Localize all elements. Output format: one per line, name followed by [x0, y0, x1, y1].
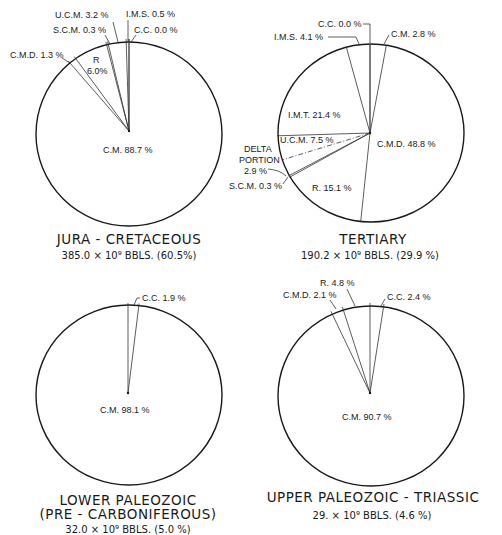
- subtitle-lower-paleozoic: 32.0 × 10⁹ BBLS. (5.0 %): [65, 524, 190, 535]
- leader-cm: [384, 35, 389, 44]
- leader-r: [347, 289, 355, 306]
- label-ucm: U.C.M. 3.2 %: [55, 10, 109, 20]
- pie-upper-paleozoic-triassic: R. 4.8 % C.M.D. 2.1 % C.C. 2.4 % C.M. 90…: [267, 278, 480, 521]
- subtitle-upper-paleozoic-triassic: 29. × 10⁹ BBLS. (4.6 %): [313, 510, 432, 521]
- label-cm: C.M. 2.8 %: [391, 29, 436, 39]
- leader-ims: [328, 37, 359, 44]
- label-cc: C.C. 1.9 %: [142, 293, 186, 303]
- pie-outline: [36, 305, 222, 485]
- label-ims: I.M.S. 0.5 %: [126, 9, 175, 19]
- subtitle-jura-cretaceous: 385.0 × 10⁹ BBLS. (60.5%): [62, 250, 197, 261]
- leader-scm: [283, 177, 288, 184]
- pie-charts-figure: U.C.M. 3.2 % I.M.S. 0.5 % S.C.M. 0.3 % C…: [0, 0, 502, 535]
- title-tertiary: TERTIARY: [338, 231, 407, 247]
- pie-center: [128, 130, 130, 132]
- label-cmd: C.M.D. 1.3 %: [10, 50, 64, 60]
- label-r: R. 4.8 %: [320, 278, 355, 288]
- label-delta-line-3: 2.9 %: [244, 166, 267, 176]
- pie-center: [369, 392, 371, 394]
- label-cmd: C.M.D. 48.8 %: [377, 139, 436, 149]
- label-cm: C.M. 88.7 %: [103, 145, 153, 155]
- label-cm: C.M. 98.1 %: [100, 405, 150, 415]
- label-cc: C.C. 0.0 %: [318, 19, 362, 29]
- pie-lower-paleozoic: C.C. 1.9 % C.M. 98.1 % LOWER PALEOZOIC (…: [36, 293, 222, 535]
- label-cmd: C.M.D. 2.1 %: [283, 290, 337, 300]
- pie-center: [127, 392, 129, 394]
- label-imt: I.M.T. 21.4 %: [288, 110, 341, 120]
- label-r-value: 6.0%: [87, 66, 108, 76]
- leader-cc: [131, 35, 136, 42]
- leader-ucm: [113, 22, 118, 42]
- leader-cc: [381, 299, 385, 306]
- leader-cc: [363, 24, 370, 43]
- title-lower-paleozoic-2: (PRE - CARBONIFEROUS): [39, 506, 216, 522]
- label-r: R. 15.1 %: [312, 183, 352, 193]
- label-r-name: R: [93, 55, 100, 65]
- label-delta-line-2: PORTION: [239, 155, 280, 165]
- label-scm: S.C.M. 0.3 %: [229, 181, 282, 191]
- leader-delta: [268, 169, 286, 176]
- pie-jura-cretaceous: U.C.M. 3.2 % I.M.S. 0.5 % S.C.M. 0.3 % C…: [10, 9, 222, 261]
- title-upper-paleozoic-triassic: UPPER PALEOZOIC - TRIASSIC: [267, 489, 480, 505]
- label-ucm: U.C.M. 7.5 %: [280, 135, 334, 145]
- title-jura-cretaceous: JURA - CRETACEOUS: [56, 231, 201, 247]
- label-scm: S.C.M. 0.3 %: [53, 25, 106, 35]
- label-delta-line-1: DELTA: [244, 144, 272, 154]
- leader-cmd: [62, 58, 70, 63]
- pie-outline: [278, 306, 464, 486]
- pie-tertiary: C.C. 0.0 % I.M.S. 4.1 % C.M. 2.8 % I.M.T…: [229, 19, 464, 261]
- leader-cmd: [330, 300, 336, 309]
- label-cc: C.C. 2.4 %: [387, 292, 431, 302]
- label-cm: C.M. 90.7 %: [342, 412, 392, 422]
- subtitle-tertiary: 190.2 × 10⁹ BBLS. (29.9 %): [301, 250, 439, 261]
- label-ims: I.M.S. 4.1 %: [274, 32, 323, 42]
- label-cc: C.C. 0.0 %: [134, 25, 178, 35]
